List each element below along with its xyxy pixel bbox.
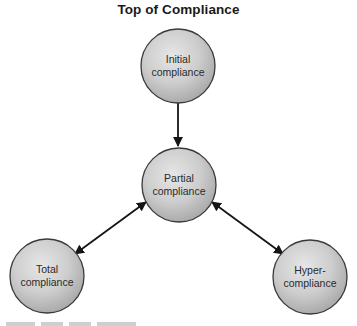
label-hyper-line1: Hyper- — [273, 264, 347, 277]
label-partial-line1: Partial — [142, 172, 216, 185]
label-hyper-compliance: Hyper- compliance — [273, 264, 347, 290]
label-hyper-line2: compliance — [273, 277, 347, 290]
label-initial-compliance: Initial compliance — [141, 53, 215, 79]
figure-caption-cropped — [6, 319, 136, 326]
caption-fragment — [6, 322, 136, 326]
label-total-line1: Total — [10, 263, 84, 276]
label-initial-line2: compliance — [141, 66, 215, 79]
label-total-compliance: Total compliance — [10, 263, 84, 289]
label-partial-compliance: Partial compliance — [142, 172, 216, 198]
arrow-partial-hyper-bidirectional — [212, 202, 283, 254]
arrow-partial-total-bidirectional — [75, 202, 146, 254]
label-partial-line2: compliance — [142, 185, 216, 198]
label-initial-line1: Initial — [141, 53, 215, 66]
label-total-line2: compliance — [10, 276, 84, 289]
